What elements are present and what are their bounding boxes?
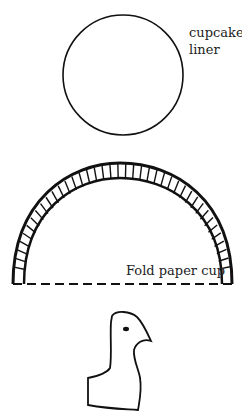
cupcake-liner-circle bbox=[63, 15, 183, 135]
fold-paper-cup-label: Fold paper cup bbox=[126, 262, 225, 279]
liner-label-line2: liner bbox=[189, 41, 242, 58]
craft-diagram bbox=[0, 0, 242, 413]
bird-eye-icon bbox=[123, 327, 129, 331]
liner-label-line1: cupcake bbox=[189, 24, 242, 41]
cupcake-liner-label: cupcake liner bbox=[189, 24, 242, 58]
bird-head-shape bbox=[88, 312, 151, 410]
